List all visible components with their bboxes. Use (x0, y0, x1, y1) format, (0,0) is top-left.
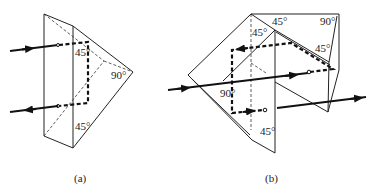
panel-b-porro-prism-pair: 45° 45° 90° 45° 90° 45° (b) (168, 14, 366, 185)
prism-a-hidden-edge (44, 14, 104, 61)
incoming-ray (10, 45, 58, 51)
caption-b: (b) (265, 172, 278, 185)
angle-label: 45° (315, 42, 330, 54)
angle-label: 45° (75, 120, 90, 132)
angle-label: 90° (220, 87, 235, 99)
angle-label: 45° (252, 26, 267, 38)
angle-label: 90° (320, 15, 335, 27)
panel-a-right-angle-prism: 45° 90° 45° (a) (10, 14, 133, 185)
angle-label: 45° (260, 125, 275, 137)
angle-label: 45° (75, 46, 90, 58)
prism-diagram: 45° 90° 45° (a) (0, 0, 375, 188)
prism-b1-edge (188, 14, 251, 75)
angle-label: 90° (111, 69, 126, 81)
caption-a: (a) (74, 172, 87, 185)
angle-label: 45° (272, 15, 287, 27)
prism-a-front-face (44, 14, 73, 148)
